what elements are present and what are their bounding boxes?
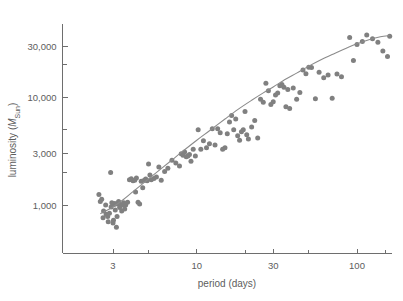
x-tick-label: 30 — [268, 260, 279, 271]
y-axis-title-suffix: ) — [7, 103, 18, 106]
x-tick-label: 100 — [349, 260, 365, 271]
data-point — [330, 96, 335, 101]
data-point — [255, 135, 260, 140]
data-point — [106, 219, 111, 224]
data-point — [291, 86, 296, 91]
data-point — [165, 166, 170, 171]
data-point — [159, 178, 164, 183]
data-point — [222, 145, 227, 150]
data-point — [385, 54, 390, 59]
data-point — [364, 32, 369, 37]
data-point — [241, 127, 246, 132]
data-point — [188, 159, 193, 164]
data-point — [237, 138, 242, 143]
data-point — [207, 141, 212, 146]
cepheid-period-luminosity-figure: 1,0003,00010,00030,000 31030100 period (… — [0, 0, 403, 301]
data-point — [275, 90, 280, 95]
data-point — [347, 35, 352, 40]
data-point — [244, 132, 249, 137]
data-point — [252, 118, 257, 123]
y-axis-title-prefix: luminosity ( — [7, 126, 18, 177]
x-axis-tick-labels: 31030100 — [110, 260, 365, 271]
data-point — [287, 106, 292, 111]
data-point — [375, 40, 380, 45]
data-point — [246, 137, 251, 142]
data-point — [99, 197, 104, 202]
data-point — [339, 74, 344, 79]
data-point — [146, 162, 151, 167]
data-point — [243, 109, 248, 114]
data-point — [263, 81, 268, 86]
data-point — [193, 154, 198, 159]
scatter-data-points — [96, 32, 392, 229]
data-point — [103, 203, 108, 208]
x-tick-label: 3 — [110, 260, 115, 271]
y-axis-title-group: luminosity (MSun) — [7, 103, 21, 178]
data-point — [235, 133, 240, 138]
data-point — [334, 71, 339, 76]
data-point — [154, 175, 159, 180]
data-point — [187, 152, 192, 157]
data-point — [321, 75, 326, 80]
x-axis: 31030100 — [63, 249, 393, 271]
data-point — [271, 99, 276, 104]
data-point — [107, 211, 112, 216]
data-point — [115, 214, 120, 219]
data-point — [113, 207, 118, 212]
data-point — [140, 185, 145, 190]
data-point — [96, 192, 101, 197]
data-point — [351, 58, 356, 63]
x-axis-tick-marks — [113, 249, 385, 254]
data-point — [196, 127, 201, 132]
y-axis-title-subscript: Sun — [14, 106, 21, 119]
data-point — [231, 127, 236, 132]
data-point — [191, 147, 196, 152]
data-point — [177, 164, 182, 169]
period-luminosity-scatter-plot: 1,0003,00010,00030,000 31030100 period (… — [0, 0, 403, 301]
data-point — [137, 202, 142, 207]
data-point — [227, 120, 232, 125]
y-tick-label: 3,000 — [33, 148, 57, 159]
y-axis-title: luminosity (MSun) — [7, 103, 21, 178]
data-point — [225, 131, 230, 136]
data-point — [380, 48, 385, 53]
data-point — [297, 90, 302, 95]
data-point — [233, 116, 238, 121]
y-tick-label: 30,000 — [27, 41, 56, 52]
data-point — [204, 145, 209, 150]
data-point — [317, 70, 322, 75]
data-point — [313, 96, 318, 101]
y-axis-tick-labels: 1,0003,00010,00030,000 — [27, 41, 56, 211]
data-point — [198, 147, 203, 152]
data-point — [261, 100, 266, 105]
data-point — [218, 130, 223, 135]
data-point — [326, 73, 331, 78]
data-point — [134, 176, 139, 181]
data-point — [249, 125, 254, 130]
data-point — [133, 190, 138, 195]
data-point — [303, 71, 308, 76]
data-point — [213, 143, 218, 148]
y-tick-label: 1,000 — [33, 200, 57, 211]
data-point — [125, 200, 130, 205]
x-tick-label: 10 — [191, 260, 202, 271]
x-axis-title: period (days) — [198, 278, 256, 289]
y-axis: 1,0003,00010,00030,000 — [27, 24, 67, 253]
data-point — [108, 170, 113, 175]
data-point — [294, 97, 299, 102]
y-tick-label: 10,000 — [27, 92, 56, 103]
data-point — [114, 225, 119, 230]
data-point — [285, 87, 290, 92]
y-axis-tick-marks — [63, 46, 68, 205]
data-point — [201, 138, 206, 143]
data-point — [111, 218, 116, 223]
